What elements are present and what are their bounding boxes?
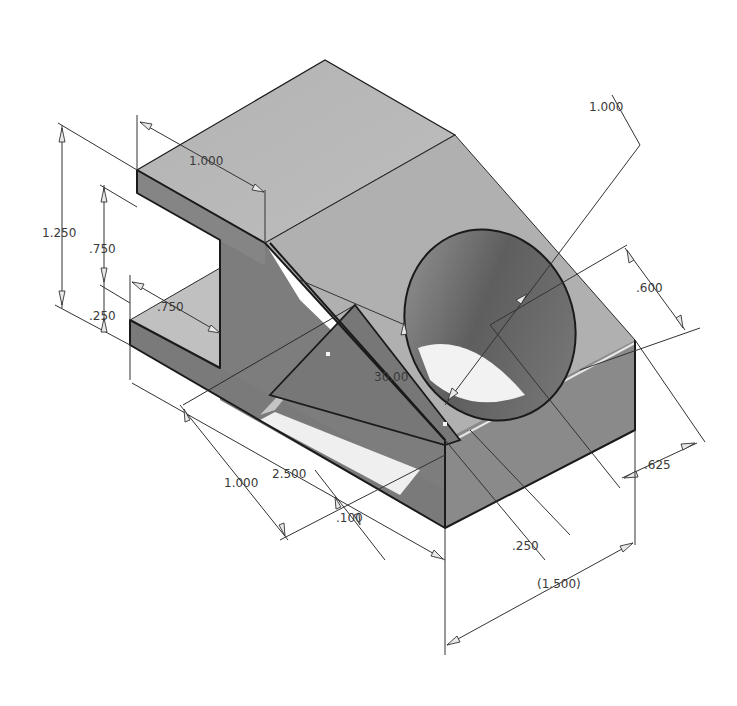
dim-length-overall: 2.500 <box>272 467 306 481</box>
dim-slot-depth: .750 <box>157 300 184 314</box>
dim-top-arm-depth: 1.000 <box>189 154 223 168</box>
dim-rib-offset: .250 <box>512 539 539 553</box>
isometric-part-drawing: 1.250 .750 .250 1.000 .750 1.000 .600 30… <box>0 0 737 706</box>
dim-overall-height: 1.250 <box>42 226 76 240</box>
dim-slot-height: .750 <box>89 242 116 256</box>
part-body <box>130 60 635 528</box>
rib-point-1 <box>326 352 330 356</box>
rib-point-2 <box>443 422 447 426</box>
dim-rib-angle: 30.00 <box>374 370 408 384</box>
dim-hole-center-offset: .600 <box>636 281 663 295</box>
dim-hole-edge-offset: .625 <box>644 458 671 472</box>
dim-width-front: 1.000 <box>224 476 258 490</box>
dim-hole-diameter: 1.000 <box>589 100 623 114</box>
dim-rib-thickness: .100 <box>336 511 363 525</box>
dim-reference-width: (1.500) <box>537 577 581 591</box>
dim-base-thickness: .250 <box>89 309 116 323</box>
